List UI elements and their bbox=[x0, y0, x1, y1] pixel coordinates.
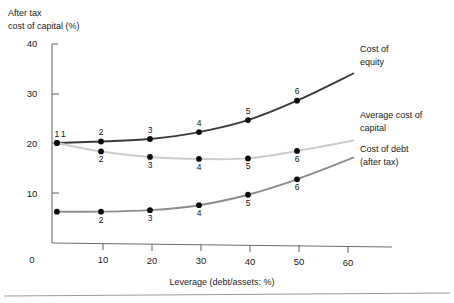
data-point-average-cost-of-capital-1 bbox=[54, 140, 60, 146]
data-point-cost-of-debt-1 bbox=[54, 209, 60, 215]
data-point-cost-of-equity-6 bbox=[294, 98, 300, 104]
chart-figure: After tax cost of capital (%) 40 30 20 1… bbox=[0, 0, 454, 303]
data-point-cost-of-equity-5 bbox=[245, 117, 251, 123]
point-label-average-cost-of-capital-6: 6 bbox=[295, 154, 300, 164]
footer-divider bbox=[4, 293, 450, 296]
point-label-average-cost-of-capital-4: 4 bbox=[197, 162, 202, 172]
series-annotations: Cost of equity Average cost of capital C… bbox=[360, 44, 423, 167]
series-label-average-line2: capital bbox=[360, 123, 386, 133]
point-label-cost-of-equity-6: 6 bbox=[295, 86, 300, 96]
y-axis-title-line2: cost of capital (%) bbox=[8, 21, 80, 31]
point-label-cost-of-debt-4: 4 bbox=[197, 208, 202, 218]
data-point-labels: 12345612345623456 bbox=[55, 86, 300, 224]
point-label-cost-of-debt-6: 6 bbox=[295, 182, 300, 192]
point-label-average-cost-of-capital-2: 2 bbox=[99, 154, 104, 164]
point-label-cost-of-equity-2: 2 bbox=[99, 127, 104, 137]
y-tick-label-30: 30 bbox=[27, 88, 38, 99]
data-point-cost-of-equity-2 bbox=[98, 139, 104, 145]
x-axis-title: Leverage (debt/assets: %) bbox=[169, 277, 274, 287]
x-tick-label-40: 40 bbox=[245, 256, 256, 267]
x-tick-label-10: 10 bbox=[98, 254, 109, 265]
cost-of-capital-chart: After tax cost of capital (%) 40 30 20 1… bbox=[0, 0, 454, 303]
point-label-cost-of-equity-1: 1 bbox=[61, 129, 66, 139]
y-axis-title-line1: After tax bbox=[8, 8, 42, 18]
point-label-cost-of-debt-5: 5 bbox=[246, 198, 251, 208]
point-label-cost-of-equity-5: 5 bbox=[246, 106, 251, 116]
point-label-cost-of-debt-3: 3 bbox=[148, 213, 153, 223]
data-point-cost-of-equity-3 bbox=[147, 136, 153, 142]
x-tick-label-60: 60 bbox=[343, 257, 354, 268]
y-tick-label-40: 40 bbox=[27, 38, 38, 49]
series-label-debt-line2: (after tax) bbox=[360, 157, 399, 167]
point-label-average-cost-of-capital-1: 1 bbox=[55, 129, 60, 139]
point-label-average-cost-of-capital-5: 5 bbox=[246, 161, 251, 171]
point-label-cost-of-equity-4: 4 bbox=[197, 118, 202, 128]
data-point-cost-of-equity-4 bbox=[196, 129, 202, 135]
x-tick-labels: 10 20 30 40 50 60 bbox=[98, 254, 354, 268]
series-label-equity-line2: equity bbox=[360, 57, 385, 67]
x-tick-label-50: 50 bbox=[294, 256, 305, 267]
point-label-cost-of-equity-3: 3 bbox=[148, 125, 153, 135]
y-tick-label-20: 20 bbox=[27, 138, 38, 149]
point-label-cost-of-debt-2: 2 bbox=[99, 215, 104, 225]
y-tick-labels: 40 30 20 10 0 bbox=[27, 38, 38, 265]
curve-cost-of-debt bbox=[57, 158, 353, 212]
x-tick-label-20: 20 bbox=[147, 255, 158, 266]
series-label-average-line1: Average cost of bbox=[360, 110, 423, 120]
x-tick-label-30: 30 bbox=[196, 255, 207, 266]
y-tick-label-0: 0 bbox=[29, 254, 34, 265]
series-label-equity-line1: Cost of bbox=[360, 44, 389, 54]
y-tick-label-10: 10 bbox=[27, 188, 38, 199]
series-label-debt-line1: Cost of debt bbox=[360, 144, 409, 154]
point-label-average-cost-of-capital-3: 3 bbox=[148, 160, 153, 170]
